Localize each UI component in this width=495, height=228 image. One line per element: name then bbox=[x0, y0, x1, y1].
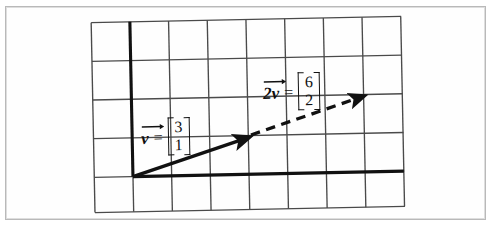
grid-line-v-3 bbox=[207, 20, 211, 210]
bracket-right-v bbox=[183, 117, 190, 155]
equals-sign-2v: = bbox=[284, 82, 293, 101]
figure-page: v = 3 1 2v = 6 2 bbox=[0, 0, 495, 228]
matrix-2v: 6 2 bbox=[298, 72, 321, 110]
y-axis bbox=[130, 22, 133, 177]
grid-vertical-lines bbox=[91, 16, 404, 212]
grid-line-v-8 bbox=[401, 16, 405, 206]
vector-v-symbol: v bbox=[141, 127, 149, 147]
grid-line-v-4 bbox=[246, 20, 250, 210]
bracket-left-v bbox=[167, 117, 174, 155]
bracket-left-2v bbox=[298, 72, 305, 110]
label-vector-2v: 2v = 6 2 bbox=[263, 72, 321, 111]
x-axis bbox=[133, 171, 404, 176]
grid-line-v-5 bbox=[285, 19, 289, 209]
vector-arrow-icon bbox=[141, 122, 165, 129]
bracket-right-2v bbox=[314, 72, 321, 110]
matrix-v-row-1: 1 bbox=[174, 136, 184, 154]
grid-and-vectors-svg bbox=[0, 0, 495, 228]
vector-2v-letter: 2v bbox=[263, 84, 279, 103]
grid-line-v-7 bbox=[362, 17, 366, 207]
equals-sign-v: = bbox=[153, 127, 162, 146]
matrix-v-row-0: 3 bbox=[173, 118, 183, 136]
grid-line-v-2 bbox=[169, 21, 173, 211]
vector-arrow-icon bbox=[263, 77, 287, 84]
matrix-v: 3 1 bbox=[167, 117, 190, 155]
vector-v-letter: v bbox=[141, 129, 149, 148]
label-vector-v: v = 3 1 bbox=[141, 117, 190, 156]
matrix-2v-row-0: 6 bbox=[304, 73, 314, 91]
vector-2v-symbol: 2v bbox=[263, 82, 279, 102]
grid-line-v-0 bbox=[91, 23, 95, 213]
grid-line-v-6 bbox=[323, 18, 327, 208]
matrix-2v-row-1: 2 bbox=[304, 91, 314, 109]
vector-figure: v = 3 1 2v = 6 2 bbox=[0, 0, 495, 228]
grid-group bbox=[91, 16, 405, 212]
